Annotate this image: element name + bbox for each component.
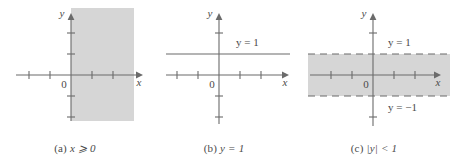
panel-c-caption-expression: |y| < 1 bbox=[367, 142, 398, 154]
boundary-label-y-equals-1: y = 1 bbox=[388, 36, 411, 48]
panel-c-caption-prefix: (c) bbox=[351, 142, 364, 154]
shaded-region-x-nonnegative bbox=[71, 8, 134, 121]
line-label-y-equals-1: y = 1 bbox=[236, 36, 259, 48]
panel-a-caption-expression: x ⩾ 0 bbox=[70, 142, 96, 154]
y-axis-arrowhead bbox=[370, 13, 377, 20]
x-axis-label: x bbox=[282, 76, 288, 88]
panel-c-plot: y x 0 y = 1 y = −1 bbox=[298, 0, 450, 138]
panel-b-caption-prefix: (b) bbox=[204, 142, 217, 154]
x-axis-label: x bbox=[136, 76, 142, 88]
panel-b-caption: (b) y = 1 bbox=[150, 142, 298, 154]
panel-a-caption: (a) x ⩾ 0 bbox=[0, 142, 150, 155]
panel-a: y x 0 (a) x ⩾ 0 bbox=[0, 0, 150, 167]
boundary-label-y-equals-minus-1: y = −1 bbox=[388, 101, 417, 113]
math-figure: y x 0 (a) x ⩾ 0 bbox=[0, 0, 450, 167]
y-axis-label: y bbox=[361, 7, 367, 19]
panel-b-svg: y x 0 y = 1 bbox=[150, 0, 298, 138]
x-axis-label: x bbox=[435, 76, 441, 88]
panel-a-caption-prefix: (a) bbox=[54, 142, 67, 154]
panel-c: y x 0 y = 1 y = −1 (c) |y| < 1 bbox=[298, 0, 450, 167]
y-axis-label: y bbox=[207, 7, 213, 19]
panel-a-plot: y x 0 bbox=[0, 0, 150, 138]
panel-a-svg: y x 0 bbox=[0, 0, 150, 138]
panel-b-plot: y x 0 y = 1 bbox=[150, 0, 298, 138]
y-axis-arrowhead bbox=[216, 13, 223, 20]
origin-label: 0 bbox=[61, 78, 67, 90]
panel-b-caption-expression: y = 1 bbox=[220, 142, 244, 154]
panel-b: y x 0 y = 1 (b) y = 1 bbox=[150, 0, 298, 167]
origin-label: 0 bbox=[209, 78, 215, 90]
panel-c-svg: y x 0 y = 1 y = −1 bbox=[298, 0, 450, 138]
panel-c-caption: (c) |y| < 1 bbox=[298, 142, 450, 154]
y-axis-label: y bbox=[59, 7, 65, 19]
origin-label: 0 bbox=[363, 78, 369, 90]
